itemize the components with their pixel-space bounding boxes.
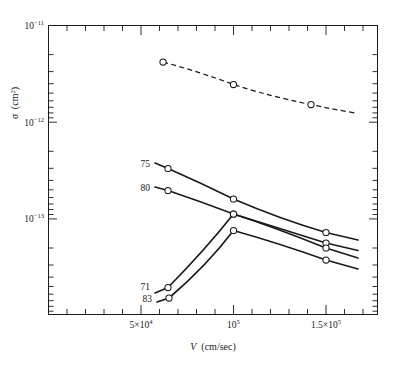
series-curve-80 xyxy=(155,187,358,251)
series-label-71: 71 xyxy=(141,282,151,292)
series-label-83: 83 xyxy=(143,294,153,304)
y-tick-label-1e-12: 10−12 xyxy=(24,116,44,128)
series-curve-71-marker xyxy=(323,245,329,251)
x-tick-exp-3: 5 xyxy=(338,318,342,325)
series-curve-75 xyxy=(155,163,358,240)
x-axis-ticks-top xyxy=(67,26,363,36)
x-tick-label-5e4: 5×104 xyxy=(130,318,154,330)
series-curve-71-marker xyxy=(230,211,236,217)
x-tick-label-1p5e5: 1.5×105 xyxy=(311,318,342,330)
figure-container: 10−11 10−12 10−13 5×104 105 1.5×105 V (c… xyxy=(0,0,395,368)
series-curve-71-marker xyxy=(165,284,171,290)
y-axis-ticks-right xyxy=(369,26,378,312)
series-curve-71 xyxy=(155,211,358,293)
series-dashed-upper-marker xyxy=(230,81,236,87)
x-tick-exp-1: 4 xyxy=(149,318,153,325)
x-tick-label-1e5: 105 xyxy=(227,318,241,330)
series-annotations: 75 80 71 83 xyxy=(141,159,153,304)
y-tick-exp-2: −12 xyxy=(34,116,44,123)
y-axis-title-units: (cm xyxy=(9,93,21,114)
series-curve-83-marker xyxy=(323,257,329,263)
series-curve-75-marker xyxy=(230,196,236,202)
series-curve-83-marker xyxy=(230,227,236,233)
y-tick-label-1e-13: 10−13 xyxy=(24,212,45,224)
series-curve-80-marker xyxy=(165,187,171,193)
series-label-75: 75 xyxy=(141,159,151,169)
y-tick-exp-3: −13 xyxy=(34,212,45,219)
series-dashed-upper xyxy=(160,59,355,113)
series-curve-83 xyxy=(157,227,358,302)
series-dashed-upper-marker xyxy=(308,101,314,107)
chart-canvas: 10−11 10−12 10−13 5×104 105 1.5×105 V (c… xyxy=(0,0,395,368)
x-axis-ticks-bottom xyxy=(67,305,363,315)
x-tick-labels: 5×104 105 1.5×105 xyxy=(130,318,342,330)
plot-frame xyxy=(49,26,378,315)
y-tick-label-1e-11: 10−11 xyxy=(24,19,44,31)
axes-border xyxy=(49,26,378,315)
y-axis-ticks-left xyxy=(49,26,58,312)
series-dashed-upper-marker xyxy=(160,59,166,65)
y-axis-title-close: ) xyxy=(9,87,21,90)
y-tick-exp-1: −11 xyxy=(34,19,44,26)
series-dashed-upper-line xyxy=(163,62,355,113)
y-tick-labels: 10−11 10−12 10−13 xyxy=(24,19,45,224)
series-curve-75-line xyxy=(155,163,358,240)
y-axis-title: σ (cm2) xyxy=(9,87,22,119)
series-curve-71-line xyxy=(155,214,358,293)
x-axis-title-units: (cm/sec) xyxy=(196,341,235,353)
x-axis-title: V (cm/sec) xyxy=(190,341,236,353)
series-label-80: 80 xyxy=(141,183,151,193)
series-curve-83-marker xyxy=(166,295,172,301)
series-curve-75-marker xyxy=(323,229,329,235)
series-curve-75-marker xyxy=(165,165,171,171)
x-tick-exp-2: 5 xyxy=(237,318,241,325)
